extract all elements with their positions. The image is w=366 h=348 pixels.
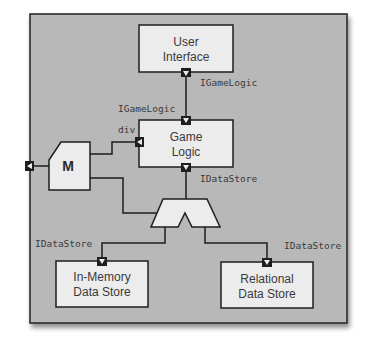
mediator-label: M: [62, 158, 74, 174]
label-relational-interface: IDataStore: [284, 240, 341, 251]
port-gamelogic-required-icon: [181, 163, 191, 172]
diagram-stage: User Interface Game Logic M In-Memory Da…: [0, 0, 366, 348]
component-game-logic[interactable]: Game Logic: [139, 120, 233, 167]
user-interface-label-line2: Interface: [163, 50, 210, 64]
in-memory-label-line1: In-Memory: [73, 270, 130, 284]
relational-label-line2: Data Store: [238, 287, 296, 301]
port-boundary-icon: [25, 161, 34, 171]
in-memory-label-line2: Data Store: [73, 285, 131, 299]
port-ui-required-icon: [181, 68, 191, 77]
user-interface-label-line1: User: [173, 35, 198, 49]
game-logic-label-line1: Game: [170, 130, 203, 144]
port-inmemory-icon: [97, 257, 107, 266]
game-logic-label-line2: Logic: [172, 145, 201, 159]
component-diagram: User Interface Game Logic M In-Memory Da…: [0, 0, 366, 348]
port-relational-icon: [262, 258, 272, 267]
label-gl-div: div: [118, 124, 135, 135]
label-ui-required-interface: IGameLogic: [200, 77, 257, 88]
component-user-interface[interactable]: User Interface: [139, 25, 233, 72]
port-gamelogic-provided-icon: [181, 116, 191, 125]
label-gl-provided-interface: IGameLogic: [118, 103, 175, 114]
label-gl-required-interface: IDataStore: [200, 173, 257, 184]
label-inmemory-interface: IDataStore: [35, 238, 92, 249]
component-relational-data-store[interactable]: Relational Data Store: [221, 262, 313, 308]
component-in-memory-data-store[interactable]: In-Memory Data Store: [56, 261, 148, 307]
port-gamelogic-div-icon: [135, 137, 144, 147]
relational-label-line1: Relational: [240, 272, 293, 286]
